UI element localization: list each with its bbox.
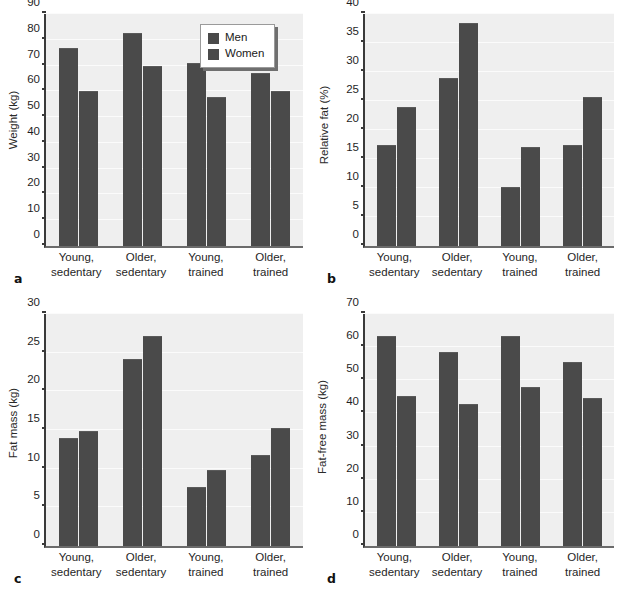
y-tick-label: 10 bbox=[325, 496, 365, 508]
bar-women bbox=[521, 147, 540, 246]
x-category-label: Older,sedentary bbox=[426, 250, 489, 280]
panel-b-y-axis-label: Relative fat (%) bbox=[315, 0, 333, 250]
bar-women bbox=[583, 97, 602, 246]
legend-swatch-women-icon bbox=[208, 49, 219, 60]
x-category-label: Older,trained bbox=[551, 550, 614, 580]
x-category-label: Older,sedentary bbox=[109, 550, 174, 580]
legend-row-men: Men bbox=[208, 30, 264, 46]
bar-group bbox=[123, 14, 162, 246]
bar-men bbox=[123, 33, 142, 246]
panel-d-plot-wrapper: 010203040506070 bbox=[363, 314, 614, 548]
panel-c-bars bbox=[46, 314, 303, 546]
x-category-label: Older,trained bbox=[238, 550, 303, 580]
y-tick-label: 40 bbox=[325, 397, 365, 409]
panel-d-bars bbox=[365, 314, 614, 546]
bar-women bbox=[79, 91, 98, 246]
panel-c-letter: c bbox=[14, 571, 21, 586]
bar-group bbox=[563, 314, 602, 546]
panel-b-letter: b bbox=[327, 271, 336, 286]
bar-women bbox=[583, 398, 602, 546]
bar-women bbox=[397, 107, 416, 246]
x-category-label: Young,trained bbox=[174, 550, 239, 580]
y-tick-mark bbox=[361, 11, 365, 13]
x-category-label: Young,trained bbox=[174, 250, 239, 280]
bar-men bbox=[563, 362, 582, 546]
y-tick-label: 0 bbox=[325, 529, 365, 541]
x-category-label: Young,sedentary bbox=[363, 250, 426, 280]
panel-b-x-labels: Young,sedentaryOlder,sedentaryYoung,trai… bbox=[363, 250, 614, 286]
bar-men bbox=[251, 73, 270, 246]
panel-d-plot-area: 010203040506070 bbox=[363, 314, 614, 548]
bar-women bbox=[143, 336, 162, 546]
bar-men bbox=[187, 63, 206, 246]
panel-a-y-axis-label: Weight (kg) bbox=[4, 0, 22, 245]
bar-men bbox=[501, 187, 520, 246]
panel-c-x-labels: Young,sedentaryOlder,sedentaryYoung,trai… bbox=[44, 550, 303, 586]
legend: Men Women bbox=[200, 24, 275, 68]
x-category-label: Young,sedentary bbox=[363, 550, 426, 580]
y-tick-mark bbox=[42, 311, 46, 313]
y-tick-mark bbox=[361, 311, 365, 313]
bar-women bbox=[397, 396, 416, 546]
x-category-label: Older,trained bbox=[238, 250, 303, 280]
bar-group bbox=[187, 314, 226, 546]
bar-group bbox=[501, 314, 540, 546]
bar-group bbox=[251, 314, 290, 546]
panel-d-y-axis-label: Fat-free mass (kg) bbox=[313, 302, 331, 552]
bar-men bbox=[501, 336, 520, 546]
bar-women bbox=[459, 404, 478, 546]
bar-women bbox=[459, 23, 478, 246]
bar-group bbox=[59, 314, 98, 546]
y-tick-mark bbox=[42, 11, 46, 13]
bar-group bbox=[439, 314, 478, 546]
y-tick-label: 50 bbox=[325, 364, 365, 376]
bar-men bbox=[187, 487, 206, 546]
figure-grid: Weight (kg) 0102030405060708090 Young,se… bbox=[0, 0, 622, 600]
bar-group bbox=[377, 14, 416, 246]
y-tick-label: 20 bbox=[325, 463, 365, 475]
bar-women bbox=[521, 387, 540, 546]
bar-group bbox=[123, 314, 162, 546]
y-tick-label: 60 bbox=[325, 330, 365, 342]
bar-group bbox=[501, 14, 540, 246]
panel-c-plot-area: 051015202530 bbox=[44, 314, 303, 548]
panel-b-bars bbox=[365, 14, 614, 246]
panel-c-y-axis-label: Fat mass (kg) bbox=[4, 298, 22, 548]
bar-women bbox=[79, 431, 98, 546]
panel-d-x-labels: Young,sedentaryOlder,sedentaryYoung,trai… bbox=[363, 550, 614, 586]
panel-b: Relative fat (%) 0510152025303540 Young,… bbox=[311, 0, 622, 300]
bar-men bbox=[59, 438, 78, 546]
bar-women bbox=[271, 428, 290, 546]
panel-c-plot-wrapper: 051015202530 bbox=[44, 314, 303, 548]
bar-women bbox=[207, 97, 226, 247]
bar-group bbox=[439, 14, 478, 246]
bar-group bbox=[377, 314, 416, 546]
bar-group bbox=[59, 14, 98, 246]
panel-c: Fat mass (kg) 051015202530 Young,sedenta… bbox=[0, 300, 311, 600]
bar-women bbox=[271, 91, 290, 246]
x-category-label: Young,sedentary bbox=[44, 550, 109, 580]
bar-men bbox=[123, 359, 142, 546]
panel-b-plot-wrapper: 0510152025303540 bbox=[363, 14, 614, 248]
bar-women bbox=[143, 66, 162, 246]
x-category-label: Young,sedentary bbox=[44, 250, 109, 280]
panel-d: Fat-free mass (kg) 010203040506070 Young… bbox=[311, 300, 622, 600]
bar-men bbox=[439, 78, 458, 246]
x-category-label: Older,sedentary bbox=[109, 250, 174, 280]
panel-d-letter: d bbox=[327, 571, 336, 586]
x-category-label: Older,trained bbox=[551, 250, 614, 280]
legend-label-women: Women bbox=[225, 48, 264, 60]
bar-men bbox=[563, 145, 582, 246]
bar-men bbox=[251, 455, 270, 546]
panel-a-x-labels: Young,sedentaryOlder,sedentaryYoung,trai… bbox=[44, 250, 303, 286]
bar-men bbox=[439, 352, 458, 546]
bar-men bbox=[377, 145, 396, 247]
panel-a: Weight (kg) 0102030405060708090 Young,se… bbox=[0, 0, 311, 300]
legend-row-women: Women bbox=[208, 46, 264, 62]
legend-swatch-men-icon bbox=[208, 33, 219, 44]
panel-a-letter: a bbox=[14, 271, 22, 286]
bar-men bbox=[59, 48, 78, 246]
panel-b-plot-area: 0510152025303540 bbox=[363, 14, 614, 248]
bar-group bbox=[563, 14, 602, 246]
x-category-label: Young,trained bbox=[489, 250, 552, 280]
